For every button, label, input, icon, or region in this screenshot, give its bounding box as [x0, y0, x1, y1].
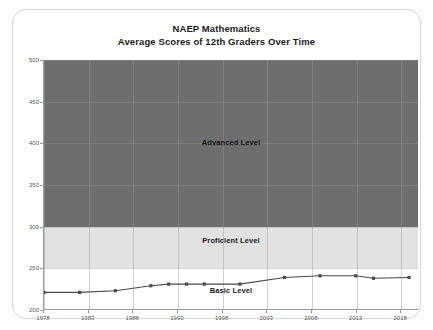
y-tick-mark-500: [40, 60, 43, 61]
x-tick-label-1983: 1983: [81, 315, 94, 321]
y-tick-label-400: 400: [29, 140, 39, 146]
y-tick-label-300: 300: [29, 224, 39, 230]
x-tick-mark-2003: [266, 310, 267, 313]
y-tick-mark-350: [40, 185, 43, 186]
x-tick-label-2018: 2018: [393, 315, 406, 321]
y-tick-mark-300: [40, 227, 43, 228]
chart-title: NAEP Mathematics Average Scores of 12th …: [13, 22, 420, 48]
y-tick-mark-400: [40, 143, 43, 144]
x-tick-mark-1993: [177, 310, 178, 313]
data-point-2009: [318, 274, 321, 277]
data-point-2000: [238, 283, 241, 286]
y-tick-label-350: 350: [29, 182, 39, 188]
data-point-1990: [149, 284, 152, 287]
x-tick-label-1978: 1978: [36, 315, 49, 321]
x-tick-mark-2018: [400, 310, 401, 313]
data-point-1994: [185, 283, 188, 286]
title-line-1: NAEP Mathematics: [13, 22, 420, 35]
y-tick-mark-250: [40, 268, 43, 269]
data-point-2005: [283, 276, 286, 279]
data-point-2019: [407, 276, 410, 279]
plot-area-wrapper: Advanced Level Proficient Level Basic Le…: [43, 60, 418, 310]
x-tick-label-2003: 2003: [260, 315, 273, 321]
x-tick-label-1988: 1988: [126, 315, 139, 321]
x-tick-label-1993: 1993: [170, 315, 183, 321]
y-tick-mark-450: [40, 102, 43, 103]
x-tick-mark-2013: [356, 310, 357, 313]
data-point-1992: [167, 283, 170, 286]
data-point-2013: [354, 274, 357, 277]
y-tick-label-500: 500: [29, 57, 39, 63]
title-line-2: Average Scores of 12th Graders Over Time: [13, 35, 420, 48]
y-tick-label-200: 200: [29, 307, 39, 313]
x-tick-mark-1988: [132, 310, 133, 313]
x-tick-mark-1983: [88, 310, 89, 313]
data-point-1996: [203, 283, 206, 286]
data-point-1978: [43, 291, 46, 294]
x-tick-label-2013: 2013: [349, 315, 362, 321]
data-point-2015: [372, 277, 375, 280]
series-path: [44, 276, 409, 293]
x-tick-label-2008: 2008: [304, 315, 317, 321]
data-point-1982: [78, 291, 81, 294]
chart-card: NAEP Mathematics Average Scores of 12th …: [12, 9, 421, 319]
x-tick-mark-1998: [222, 310, 223, 313]
data-point-1986: [114, 289, 117, 292]
x-tick-mark-1978: [43, 310, 44, 313]
x-tick-label-1998: 1998: [215, 315, 228, 321]
y-tick-label-250: 250: [29, 265, 39, 271]
plot-area: Advanced Level Proficient Level Basic Le…: [43, 60, 418, 310]
x-tick-mark-2008: [311, 310, 312, 313]
y-tick-label-450: 450: [29, 99, 39, 105]
series-line: [44, 60, 418, 309]
